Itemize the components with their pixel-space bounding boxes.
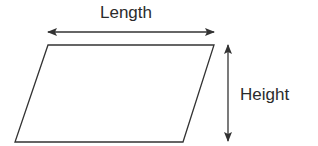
height-label: Height <box>240 86 289 103</box>
parallelogram-diagram: Length Height <box>0 0 318 146</box>
parallelogram-shape <box>15 45 214 142</box>
length-label: Length <box>100 4 152 21</box>
diagram-canvas <box>0 0 318 146</box>
